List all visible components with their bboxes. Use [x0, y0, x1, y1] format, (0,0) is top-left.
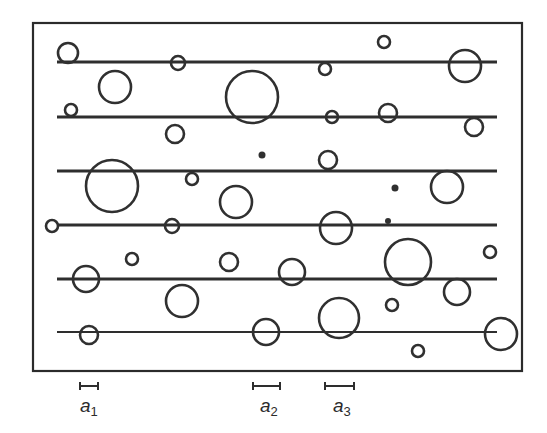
particle-circle [226, 71, 278, 123]
particle-circle [80, 326, 98, 344]
label-a2: a2 [260, 395, 278, 419]
diagram-stage: a1 a2 a3 [0, 0, 547, 433]
particle-circle [485, 318, 517, 350]
scale-bars-group [80, 382, 354, 390]
particle-circle [484, 246, 496, 258]
particle-circle [86, 160, 138, 212]
particle-circle [65, 104, 77, 116]
particle-circle [319, 151, 337, 169]
particle-circle [99, 71, 131, 103]
diagram-frame [33, 23, 522, 371]
particle-circle [58, 43, 78, 63]
scale-bar-a2 [253, 382, 280, 390]
particle-circle [220, 186, 252, 218]
particle-circle [166, 285, 198, 317]
particle-circle [186, 173, 198, 185]
particle-circle [412, 345, 424, 357]
particle-circle [126, 253, 138, 265]
particle-dot [259, 152, 266, 159]
particle-circle [279, 259, 305, 285]
scale-bar-a1 [80, 382, 98, 390]
particle-circle [379, 104, 397, 122]
particle-circle [386, 299, 398, 311]
particle-circle [320, 212, 352, 244]
particle-circle [465, 118, 483, 136]
circles-group [46, 36, 517, 357]
particle-circle [166, 125, 184, 143]
particle-circle [378, 36, 390, 48]
particle-circle [46, 220, 58, 232]
label-a3: a3 [333, 395, 351, 419]
particle-circle [431, 171, 463, 203]
scale-bar-a3 [325, 382, 354, 390]
particle-circle [449, 50, 481, 82]
particle-line-diagram: a1 a2 a3 [0, 0, 547, 433]
particle-dot [385, 218, 391, 224]
particle-circle [444, 279, 470, 305]
particle-dot [392, 185, 399, 192]
particle-circle [220, 253, 238, 271]
particle-circle [319, 63, 331, 75]
label-a1: a1 [80, 395, 98, 419]
